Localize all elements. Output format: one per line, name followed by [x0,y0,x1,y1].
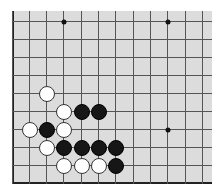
grid-horizontal-line [12,111,212,112]
grid-horizontal-line [12,75,212,76]
black-stone [108,140,124,156]
grid-horizontal-line [12,57,212,58]
grid-vertical-line [12,11,13,184]
grid-vertical-line [133,11,134,184]
grid-vertical-line [29,11,30,184]
grid-vertical-line [185,11,186,184]
white-stone [56,122,72,138]
white-stone [39,140,55,156]
grid-horizontal-line [12,21,212,22]
star-point-icon [165,127,170,132]
white-stone [91,158,107,174]
white-stone [22,122,38,138]
grid-horizontal-line [12,39,212,40]
black-stone [39,122,55,138]
go-board[interactable] [12,11,212,184]
star-point-icon [165,19,170,24]
black-stone [91,140,107,156]
star-point-icon [61,19,66,24]
black-stone [56,140,72,156]
black-stone [74,104,90,120]
white-stone [39,86,55,102]
white-stone [74,158,90,174]
grid-vertical-line [202,11,203,184]
white-stone [56,158,72,174]
grid-vertical-line [167,11,168,184]
black-stone [91,104,107,120]
black-stone [74,140,90,156]
grid-vertical-line [150,11,151,184]
black-stone [108,158,124,174]
board-bottom-edge [12,182,212,184]
white-stone [56,104,72,120]
